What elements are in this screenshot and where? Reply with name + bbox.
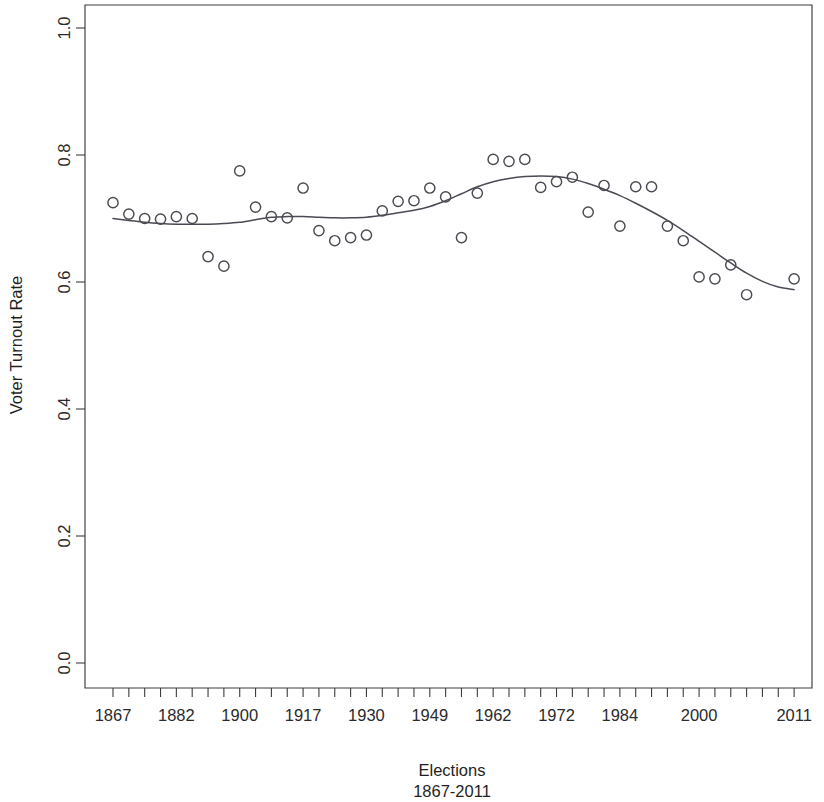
y-tick-label: 0.8 <box>55 144 73 167</box>
y-tick-label: 0.4 <box>55 398 73 421</box>
x-tick-label: 2000 <box>681 706 718 724</box>
x-tick-label: 1882 <box>158 706 195 724</box>
scatter-plot-svg: 0.00.20.40.60.81.0 186718821900191719301… <box>0 0 824 802</box>
x-tick-label: 1867 <box>95 706 132 724</box>
x-tick-label: 1949 <box>411 706 448 724</box>
x-tick-label: 1930 <box>348 706 385 724</box>
x-tick-label: 2011 <box>776 706 811 724</box>
x-tick-label: 1984 <box>602 706 639 724</box>
x-tick-label: 1972 <box>538 706 575 724</box>
y-tick-label: 0.0 <box>55 652 73 675</box>
y-tick-label: 0.6 <box>55 271 73 294</box>
x-axis-title: Elections <box>419 761 486 779</box>
y-tick-label: 0.2 <box>55 525 73 548</box>
x-tick-label: 1962 <box>475 706 512 724</box>
y-axis-title: Voter Turnout Rate <box>7 276 25 415</box>
x-tick-label: 1917 <box>285 706 322 724</box>
y-tick-label: 1.0 <box>55 17 73 40</box>
x-axis-subtitle: 1867-2011 <box>413 782 491 800</box>
plot-background <box>0 0 824 802</box>
chart-figure: 0.00.20.40.60.81.0 186718821900191719301… <box>0 0 824 802</box>
x-tick-label: 1900 <box>221 706 258 724</box>
